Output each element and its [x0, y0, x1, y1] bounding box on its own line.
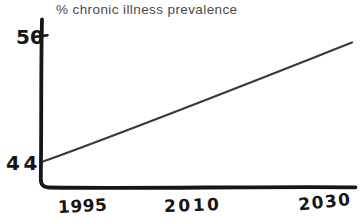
y-tick-label-50: 50 — [16, 25, 44, 49]
x-tick-label-2010: 2010 — [164, 194, 222, 216]
y-tick-label-44: 44 — [6, 151, 41, 175]
chart-figure: % chronic illness prevalence 50 44 1995 … — [0, 0, 363, 220]
x-tick-label-1995: 1995 — [58, 195, 108, 218]
x-tick-label-2030: 2030 — [297, 189, 352, 214]
trend-line — [43, 43, 352, 162]
sketch-line-chart: % chronic illness prevalence 50 44 1995 … — [0, 0, 363, 220]
chart-title: % chronic illness prevalence — [56, 2, 238, 17]
